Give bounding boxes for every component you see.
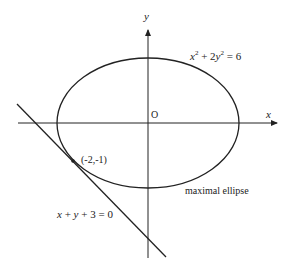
tangent-line: [17, 104, 166, 257]
tangent-line-equation: x + y + 3 = 0: [56, 208, 113, 220]
y-axis-label: y: [143, 10, 149, 22]
x-axis-label: x: [265, 108, 271, 120]
ellipse-tangent-diagram: y x O x2 + 2y2 = 6 (-2,-1) maximal ellip…: [0, 0, 291, 271]
origin-label: O: [151, 109, 158, 120]
ellipse-caption: maximal ellipse: [185, 185, 249, 196]
tangent-point-marker: [71, 159, 75, 163]
ellipse-equation: x2 + 2y2 = 6: [189, 49, 242, 62]
tangent-point-label: (-2,-1): [81, 154, 107, 166]
